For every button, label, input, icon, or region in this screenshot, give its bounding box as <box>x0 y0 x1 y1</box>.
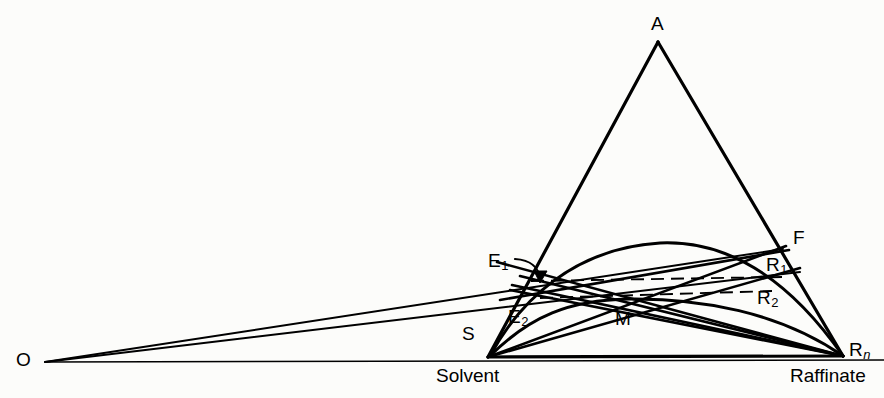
label-e1-base: E <box>488 250 501 271</box>
label-point-r2: R2 <box>757 288 778 309</box>
line-crossing-through-m <box>497 262 843 356</box>
label-point-o: O <box>16 350 31 369</box>
label-r1-subscript: 1 <box>780 262 787 277</box>
extraction-stage-diagram: A F E1 E2 R1 R2 Rn M S O Solvent Raffina… <box>0 0 884 398</box>
label-point-m: M <box>615 309 631 328</box>
caption-solvent: Solvent <box>436 366 499 385</box>
label-rn-subscript: n <box>863 347 870 362</box>
operating-lines <box>45 249 800 362</box>
label-e1-subscript: 1 <box>501 258 508 273</box>
label-r2-base: R <box>757 287 771 308</box>
label-point-e2: E2 <box>508 307 528 328</box>
triangle-base <box>488 356 843 357</box>
label-apex-a: A <box>651 14 664 33</box>
label-point-s: S <box>462 324 475 343</box>
label-e2-base: E <box>508 306 521 327</box>
label-r2-subscript: 2 <box>771 295 778 310</box>
triangle-right-leg <box>658 42 843 356</box>
label-point-r1: R1 <box>766 255 787 276</box>
baseline-from-o <box>45 360 884 362</box>
label-point-f: F <box>793 228 805 247</box>
label-e2-subscript: 2 <box>521 314 528 329</box>
ternary-triangle <box>488 42 843 357</box>
label-point-e1: E1 <box>488 251 508 272</box>
line-s-to-f <box>488 246 786 357</box>
diagram-canvas <box>0 0 884 398</box>
label-rn-base: R <box>849 339 863 360</box>
caption-raffinate: Raffinate <box>790 366 866 385</box>
binodal-curve <box>490 243 843 356</box>
label-r1-base: R <box>766 254 780 275</box>
label-point-rn: Rn <box>849 340 870 361</box>
